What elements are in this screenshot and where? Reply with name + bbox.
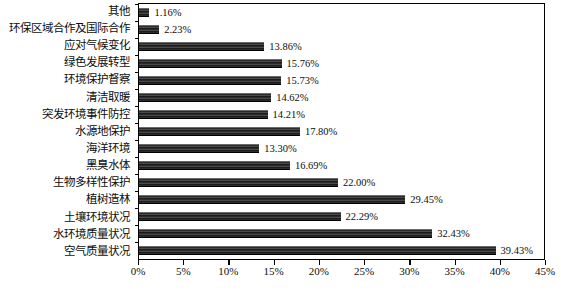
bar: [139, 161, 290, 170]
bar: [139, 110, 268, 119]
bar: [139, 42, 264, 51]
y-axis-tick: [135, 242, 139, 243]
category-label: 环保区域合作及国际合作: [0, 20, 134, 37]
bar-value-label: 16.69%: [295, 160, 327, 171]
category-label: 水源地保护: [0, 123, 134, 140]
category-label: 环境保护督察: [0, 72, 134, 89]
y-axis-tick: [135, 38, 139, 39]
category-label: 植树造林: [0, 192, 134, 209]
bar-row: 17.80%: [139, 123, 544, 140]
x-axis-tick: [500, 260, 501, 265]
x-axis-tick: [183, 260, 184, 265]
x-axis-tick: [228, 260, 229, 265]
bar: [139, 59, 282, 68]
bar-row: 39.43%: [139, 242, 544, 259]
x-axis-tick: [364, 260, 365, 265]
category-label: 应对气候变化: [0, 37, 134, 54]
y-axis-tick: [135, 21, 139, 22]
category-axis-labels: 其他环保区域合作及国际合作应对气候变化绿色发展转型环境保护督察清洁取暖突发环境事…: [0, 3, 134, 260]
bar: [139, 25, 159, 34]
bar-value-label: 29.45%: [410, 194, 442, 205]
y-axis-tick: [135, 72, 139, 73]
bar-value-label: 22.29%: [346, 211, 378, 222]
bar-value-label: 14.21%: [273, 109, 305, 120]
x-axis-tick-label: 10%: [218, 266, 238, 277]
x-axis-tick-label: 15%: [264, 266, 284, 277]
x-axis-tick-label: 35%: [444, 266, 464, 277]
x-axis-tick: [138, 260, 139, 265]
bar: [139, 246, 496, 255]
bar-row: 15.73%: [139, 72, 544, 89]
plot-area: 1.16%2.23%13.86%15.76%15.73%14.62%14.21%…: [138, 3, 545, 260]
bar: [139, 93, 271, 102]
bar-row: 32.43%: [139, 225, 544, 242]
bar-series: 1.16%2.23%13.86%15.76%15.73%14.62%14.21%…: [139, 4, 544, 259]
bar-value-label: 15.73%: [286, 75, 318, 86]
bar-row: 1.16%: [139, 4, 544, 21]
x-axis-tick: [409, 260, 410, 265]
category-label: 海洋环境: [0, 140, 134, 157]
category-label: 其他: [0, 3, 134, 20]
bar: [139, 76, 281, 85]
y-axis-tick: [135, 140, 139, 141]
x-axis-tick-label: 0%: [131, 266, 146, 277]
bar-row: 14.21%: [139, 106, 544, 123]
x-axis-tick: [455, 260, 456, 265]
category-label: 清洁取暖: [0, 89, 134, 106]
bar-row: 2.23%: [139, 21, 544, 38]
y-axis-tick: [135, 157, 139, 158]
category-label: 土壤环境状况: [0, 209, 134, 226]
bar-row: 22.29%: [139, 208, 544, 225]
bar: [139, 8, 149, 17]
bar: [139, 195, 405, 204]
x-axis-tick-labels: 0%5%10%15%20%25%30%35%40%45%: [138, 266, 545, 282]
y-axis-tick: [135, 208, 139, 209]
y-axis-tick: [135, 225, 139, 226]
x-axis-tick-label: 20%: [309, 266, 329, 277]
bar-row: 16.69%: [139, 157, 544, 174]
bar: [139, 212, 341, 221]
bar-value-label: 13.30%: [264, 143, 296, 154]
x-axis-tick: [274, 260, 275, 265]
bar-value-label: 14.62%: [276, 92, 308, 103]
category-label: 空气质量状况: [0, 243, 134, 260]
bar-row: 29.45%: [139, 191, 544, 208]
category-label: 绿色发展转型: [0, 54, 134, 71]
category-label: 水环境质量状况: [0, 226, 134, 243]
bar-value-label: 2.23%: [164, 24, 191, 35]
category-label: 生物多样性保护: [0, 174, 134, 191]
bar: [139, 178, 338, 187]
bar-value-label: 39.43%: [501, 245, 533, 256]
bar: [139, 229, 432, 238]
category-label: 黑臭水体: [0, 157, 134, 174]
bar-row: 13.86%: [139, 38, 544, 55]
category-label: 突发环境事件防控: [0, 106, 134, 123]
bar: [139, 144, 259, 153]
y-axis-tick: [135, 174, 139, 175]
bar: [139, 127, 300, 136]
x-axis-tick-label: 25%: [354, 266, 374, 277]
bar-value-label: 1.16%: [154, 7, 181, 18]
y-axis-tick: [135, 106, 139, 107]
y-axis-tick: [135, 191, 139, 192]
y-axis-tick: [135, 123, 139, 124]
bar-row: 13.30%: [139, 140, 544, 157]
x-axis-tick-label: 40%: [490, 266, 510, 277]
x-axis-tick-label: 45%: [535, 266, 555, 277]
bar-row: 22.00%: [139, 174, 544, 191]
horizontal-bar-chart: 其他环保区域合作及国际合作应对气候变化绿色发展转型环境保护督察清洁取暖突发环境事…: [0, 0, 561, 298]
bar-row: 14.62%: [139, 89, 544, 106]
x-axis-tick-label: 5%: [176, 266, 191, 277]
y-axis-tick: [135, 4, 139, 5]
x-axis-tick-label: 30%: [399, 266, 419, 277]
bar-value-label: 22.00%: [343, 177, 375, 188]
x-axis-tick: [545, 260, 546, 265]
bar-row: 15.76%: [139, 55, 544, 72]
x-axis-tick: [319, 260, 320, 265]
x-axis-ticks: [138, 260, 545, 265]
bar-value-label: 13.86%: [269, 41, 301, 52]
y-axis-tick: [135, 55, 139, 56]
bar-value-label: 15.76%: [287, 58, 319, 69]
bar-value-label: 32.43%: [437, 228, 469, 239]
y-axis-tick: [135, 89, 139, 90]
